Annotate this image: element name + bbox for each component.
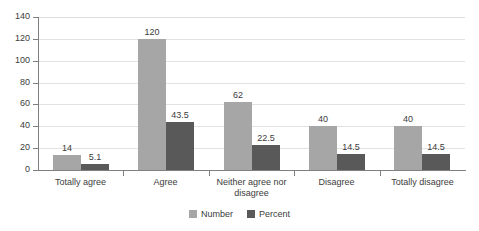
bar-number[interactable] [138, 39, 166, 170]
bar-value-label: 120 [130, 27, 174, 37]
y-axis-line [38, 17, 39, 171]
x-axis-tick [380, 171, 381, 176]
bar-percent[interactable] [337, 154, 365, 170]
y-axis-tick [33, 170, 38, 171]
category-label-line: Disagree [318, 177, 354, 187]
y-axis-tick [33, 104, 38, 105]
y-axis-tick [33, 39, 38, 40]
x-axis-line [38, 170, 466, 171]
bar-value-label: 22.5 [244, 133, 288, 143]
bar-percent[interactable] [252, 145, 280, 170]
gridline [38, 61, 465, 62]
legend-label-percent: Percent [259, 209, 290, 219]
x-axis-category-label: Agree [123, 177, 208, 188]
y-axis-tick-label: 120 [0, 33, 30, 43]
bar-value-label: 14.5 [329, 142, 373, 152]
x-axis-tick [123, 171, 124, 176]
x-axis-category-label: Disagree [294, 177, 379, 188]
bar-percent[interactable] [81, 164, 109, 170]
y-axis-tick-label: 40 [0, 120, 30, 130]
legend-label-number: Number [201, 209, 233, 219]
y-axis-tick-label: 80 [0, 77, 30, 87]
category-label-line: Agree [153, 177, 177, 187]
gridline [38, 83, 465, 84]
x-axis-category-label: Totally disagree [380, 177, 465, 188]
chart-legend: Number Percent [0, 209, 479, 219]
y-axis-tick-label: 60 [0, 98, 30, 108]
bar-percent[interactable] [166, 122, 194, 170]
x-axis-category-label: Totally agree [38, 177, 123, 188]
y-axis-tick-label: 0 [0, 164, 30, 174]
y-axis-tick [33, 148, 38, 149]
category-label-line: disagree [209, 188, 294, 199]
x-axis-category-label: Neither agree nordisagree [209, 177, 294, 199]
y-axis-tick [33, 17, 38, 18]
bar-value-label: 5.1 [73, 152, 117, 162]
y-axis-tick-label: 140 [0, 11, 30, 21]
category-label-line: Totally agree [55, 177, 106, 187]
legend-swatch-percent-icon [247, 210, 255, 218]
gridline [38, 39, 465, 40]
bar-value-label: 14.5 [414, 142, 458, 152]
y-axis-tick [33, 126, 38, 127]
bar-value-label: 40 [386, 114, 430, 124]
y-axis-tick [33, 83, 38, 84]
y-axis-tick-label: 100 [0, 55, 30, 65]
y-axis-tick [33, 61, 38, 62]
bar-chart: 020406080100120140 145.112043.56222.5401… [0, 0, 479, 231]
category-label-line: Neither agree nor [216, 177, 286, 187]
legend-item-number[interactable]: Number [189, 209, 233, 219]
bar-value-label: 40 [301, 114, 345, 124]
bar-percent[interactable] [422, 154, 450, 170]
legend-item-percent[interactable]: Percent [247, 209, 290, 219]
x-axis-tick [209, 171, 210, 176]
gridline [38, 17, 465, 18]
bar-value-label: 62 [216, 90, 260, 100]
y-axis-tick-label: 20 [0, 142, 30, 152]
bar-value-label: 14 [45, 143, 89, 153]
category-label-line: Totally disagree [391, 177, 454, 187]
legend-swatch-number-icon [189, 210, 197, 218]
x-axis-tick [294, 171, 295, 176]
bar-value-label: 43.5 [158, 110, 202, 120]
